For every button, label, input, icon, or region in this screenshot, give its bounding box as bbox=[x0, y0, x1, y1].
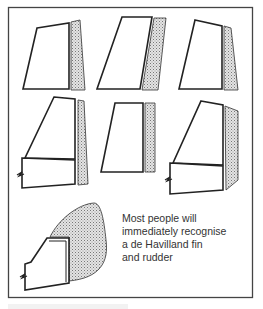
fin-shape bbox=[101, 103, 143, 172]
rudder-shape bbox=[145, 103, 155, 172]
annotation-line: Most people will bbox=[122, 212, 247, 225]
annotation-line: a de Havilland fin bbox=[122, 238, 247, 251]
fin-shape bbox=[173, 101, 223, 165]
fuselage-stub bbox=[170, 163, 223, 194]
fin-shape bbox=[25, 97, 75, 159]
tail-panel-4 bbox=[17, 97, 88, 188]
annotation-line: and rudder bbox=[122, 251, 247, 264]
cropped-caption bbox=[8, 304, 128, 309]
tail-panel-1 bbox=[23, 20, 85, 90]
tail-panel-3 bbox=[179, 20, 238, 90]
rudder-shape bbox=[78, 100, 88, 185]
rudder-shape bbox=[71, 20, 85, 90]
fin-shape bbox=[179, 20, 222, 89]
tail-panel-6 bbox=[165, 101, 238, 194]
tail-panel-7 bbox=[20, 203, 107, 290]
fuselage-stub bbox=[22, 158, 75, 188]
fin-shape bbox=[25, 238, 69, 290]
annotation-line: immediately recognise bbox=[122, 225, 247, 238]
tail-panel-5 bbox=[101, 103, 155, 172]
rudder-shape bbox=[225, 106, 238, 190]
annotation-text: Most people will immediately recognise a… bbox=[122, 212, 247, 264]
tail-panel-2 bbox=[97, 17, 166, 90]
fin-shape bbox=[23, 23, 69, 89]
rudder-shape bbox=[224, 26, 238, 90]
